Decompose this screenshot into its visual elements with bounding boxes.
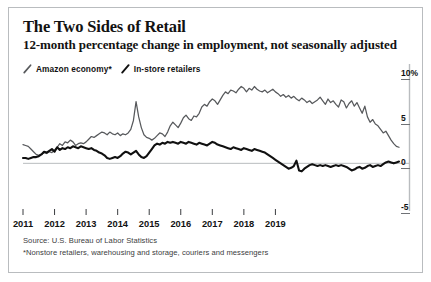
- y-axis-tick-0: 0: [401, 157, 410, 169]
- line-chart-plot: [9, 8, 424, 274]
- x-axis-label-2016: 2016: [170, 219, 191, 229]
- y-axis-tick-10pct: 10%: [401, 68, 418, 80]
- x-axis-label-2014: 2014: [107, 219, 128, 229]
- source-note: Source: U.S. Bureau of Labor Statistics: [23, 236, 157, 245]
- x-axis-label-2019: 2019: [265, 219, 286, 229]
- x-axis-label-2015: 2015: [139, 219, 160, 229]
- chart-card: The Two Sides of Retail 12-month percent…: [8, 7, 423, 273]
- y-axis-tick-neg5: -5: [401, 202, 410, 214]
- series-line-amazon-economy: [23, 87, 399, 156]
- x-axis-label-2017: 2017: [202, 219, 223, 229]
- y-axis-tick-5: 5: [401, 113, 410, 125]
- x-axis-label-2013: 2013: [76, 219, 97, 229]
- x-axis-ticks: [23, 209, 275, 215]
- x-axis-label-2012: 2012: [44, 219, 65, 229]
- x-axis-label-2018: 2018: [234, 219, 255, 229]
- x-axis-label-2011: 2011: [13, 219, 33, 229]
- footnote-note: *Nonstore retailers, warehousing and sto…: [23, 248, 268, 257]
- series-line-in-store-retailers: [23, 142, 399, 171]
